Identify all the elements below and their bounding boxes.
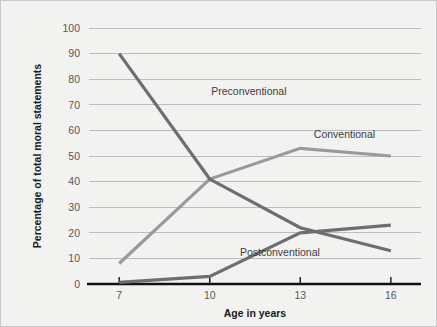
x-tick-label: 16: [385, 289, 397, 301]
x-tick-label: 10: [204, 289, 216, 301]
series-label-conventional: Conventional: [314, 128, 375, 140]
y-tick-label: 90: [68, 47, 80, 59]
chart-figure: 0102030405060708090100 7101316 Preconven…: [0, 0, 437, 327]
y-axis-tick-labels: 0102030405060708090100: [62, 22, 80, 290]
x-axis-tick-labels: 7101316: [116, 289, 397, 301]
y-tick-label: 60: [68, 124, 80, 136]
y-tick-label: 50: [68, 150, 80, 162]
x-tick-label: 13: [294, 289, 306, 301]
y-tick-label: 70: [68, 99, 80, 111]
y-tick-label: 100: [62, 22, 80, 34]
line-chart: 0102030405060708090100 7101316 Preconven…: [1, 1, 437, 327]
y-tick-label: 80: [68, 73, 80, 85]
y-axis-title: Percentage of total moral statements: [31, 64, 43, 249]
y-tick-label: 40: [68, 175, 80, 187]
y-tick-label: 0: [74, 278, 80, 290]
x-tick-label: 7: [116, 289, 122, 301]
series-label-preconventional: Preconventional: [211, 85, 286, 97]
x-axis-title: Age in years: [224, 307, 287, 319]
series-label-postconventional: Postconventional: [240, 246, 320, 258]
y-tick-label: 20: [68, 227, 80, 239]
gridlines-group: [89, 28, 421, 258]
y-tick-label: 10: [68, 252, 80, 264]
y-tick-label: 30: [68, 201, 80, 213]
